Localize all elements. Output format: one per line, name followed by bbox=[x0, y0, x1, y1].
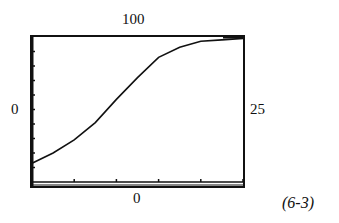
plot-frame bbox=[31, 36, 244, 187]
plot-area bbox=[0, 0, 339, 223]
axis-ticks bbox=[32, 52, 243, 183]
data-curve bbox=[32, 38, 243, 163]
